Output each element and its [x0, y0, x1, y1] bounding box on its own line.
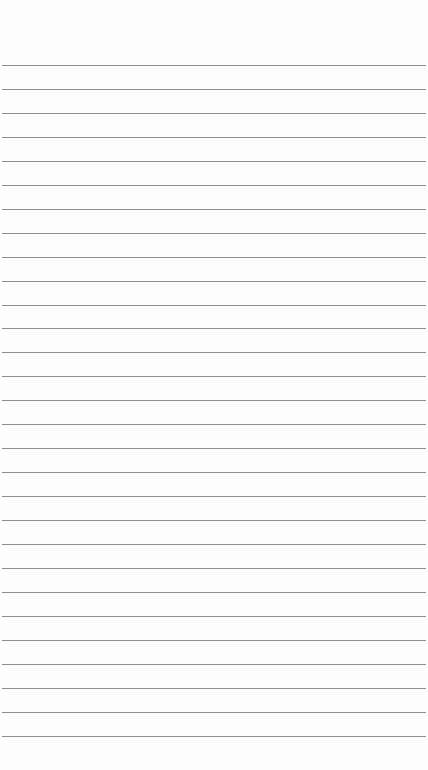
ruled-line — [2, 712, 426, 713]
ruled-line — [2, 89, 426, 90]
ruled-line — [2, 305, 426, 306]
ruled-line — [2, 424, 426, 425]
ruled-line — [2, 257, 426, 258]
ruled-line — [2, 736, 426, 737]
ruled-line — [2, 185, 426, 186]
ruled-line — [2, 137, 426, 138]
ruled-line — [2, 233, 426, 234]
ruled-line — [2, 161, 426, 162]
ruled-line — [2, 448, 426, 449]
ruled-line — [2, 113, 426, 114]
ruled-line — [2, 664, 426, 665]
ruled-line — [2, 281, 426, 282]
ruled-line — [2, 544, 426, 545]
ruled-line — [2, 376, 426, 377]
ruled-line — [2, 568, 426, 569]
ruled-line — [2, 400, 426, 401]
ruled-line — [2, 640, 426, 641]
ruled-line — [2, 616, 426, 617]
ruled-line — [2, 520, 426, 521]
lined-paper — [0, 0, 428, 770]
ruled-line — [2, 328, 426, 329]
ruled-line — [2, 65, 426, 66]
ruled-line — [2, 496, 426, 497]
ruled-line — [2, 592, 426, 593]
ruled-line — [2, 352, 426, 353]
ruled-line — [2, 209, 426, 210]
ruled-line — [2, 688, 426, 689]
ruled-line — [2, 472, 426, 473]
